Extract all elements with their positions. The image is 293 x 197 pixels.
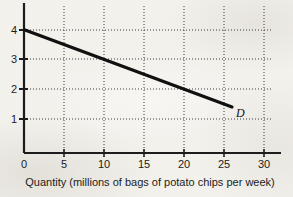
- chart-plot-area: D 4 3 2 1 0 5 10 15 20 25 30 Quantity (m…: [0, 0, 293, 197]
- x-axis-caption: Quantity (millions of bags of potato chi…: [25, 176, 274, 188]
- xtick-label-25: 25: [218, 158, 230, 170]
- demand-curve-line: [25, 30, 232, 107]
- x-tick-labels: 0 5 10 15 20 25 30: [21, 158, 270, 170]
- y-tick-labels: 4 3 2 1: [11, 24, 17, 125]
- vertical-gridlines: [64, 6, 264, 152]
- xtick-label-20: 20: [178, 158, 190, 170]
- xtick-label-5: 5: [61, 158, 67, 170]
- demand-curve-figure: D 4 3 2 1 0 5 10 15 20 25 30 Quantity (m…: [0, 0, 293, 197]
- xtick-label-10: 10: [98, 158, 110, 170]
- xtick-label-0: 0: [21, 158, 27, 170]
- ytick-label-2: 2: [11, 83, 17, 95]
- demand-curve-label: D: [235, 106, 245, 120]
- ytick-label-4: 4: [11, 24, 17, 36]
- ytick-label-3: 3: [11, 53, 17, 65]
- xtick-label-15: 15: [138, 158, 150, 170]
- xtick-label-30: 30: [258, 158, 270, 170]
- ytick-label-1: 1: [11, 113, 17, 125]
